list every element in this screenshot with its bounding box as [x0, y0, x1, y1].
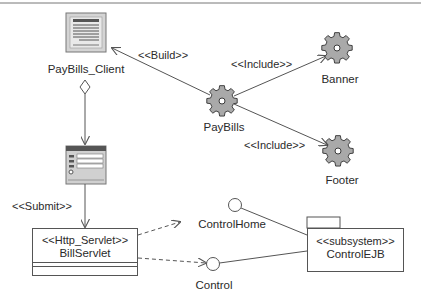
controlejb-name: ControlEJB [308, 248, 403, 261]
include-footer-stereotype-label: <<Include>> [244, 139, 305, 151]
controlejb-stereotype: <<subsystem>> [308, 235, 403, 248]
submit-stereotype-label: <<Submit>> [12, 200, 72, 212]
footer-label: Footer [325, 174, 358, 186]
attributes-compartment-divider [33, 262, 137, 263]
banner-label: Banner [321, 73, 358, 85]
paybills-client-label: PayBills_Client [48, 63, 125, 75]
dependency-controlhome-connector [138, 222, 180, 235]
controlejb-subsystem-package[interactable]: <<subsystem>> ControlEJB [307, 228, 404, 272]
paybills-gear-icon[interactable] [207, 86, 237, 116]
client-page-icon[interactable] [66, 13, 106, 52]
html-form-icon[interactable] [66, 146, 106, 184]
billservlet-class-box[interactable]: <<Http_Servlet>> BillServlet [32, 228, 138, 276]
build-stereotype-label: <<Build>> [138, 49, 188, 61]
paybills-label: PayBills [204, 121, 245, 133]
control-interface-icon[interactable] [207, 251, 308, 271]
footer-gear-icon[interactable] [323, 136, 353, 166]
operations-compartment-divider [33, 266, 137, 267]
banner-gear-icon[interactable] [322, 33, 352, 63]
control-label: Control [195, 279, 232, 291]
aggregation-connector [80, 80, 90, 144]
billservlet-stereotype: <<Http_Servlet>> [33, 234, 137, 247]
controlhome-label: ControlHome [198, 218, 266, 230]
billservlet-name: BillServlet [33, 247, 137, 260]
dependency-control-connector [138, 258, 206, 263]
package-tab [307, 217, 340, 228]
include-banner-stereotype-label: <<Include>> [231, 58, 292, 70]
